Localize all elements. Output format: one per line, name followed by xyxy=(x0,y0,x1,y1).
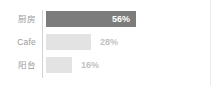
bar-fill xyxy=(46,57,72,73)
panel-right-edge-rule xyxy=(210,0,211,86)
bar-value-label: 56% xyxy=(112,11,136,27)
bar-track: 16% xyxy=(46,57,206,73)
bar-category-label: 厨房 xyxy=(0,11,36,27)
bar-category-label: Cafe xyxy=(0,34,36,50)
bar-value-label: 16% xyxy=(72,57,99,73)
bar-rows-container: 厨房 56% Cafe 28% 阳台 16% xyxy=(0,11,216,80)
bar-track: 28% xyxy=(46,34,206,50)
bar-row[interactable]: 阳台 16% xyxy=(0,57,216,73)
bar-row[interactable]: 厨房 56% xyxy=(0,11,216,27)
bar-fill xyxy=(46,34,91,50)
bar-track: 56% xyxy=(46,11,206,27)
bar-row[interactable]: Cafe 28% xyxy=(0,34,216,50)
bar-value-label: 28% xyxy=(91,34,118,50)
horizontal-bar-chart: 厨房 56% Cafe 28% 阳台 16% xyxy=(0,0,216,86)
bar-category-label: 阳台 xyxy=(0,57,36,73)
